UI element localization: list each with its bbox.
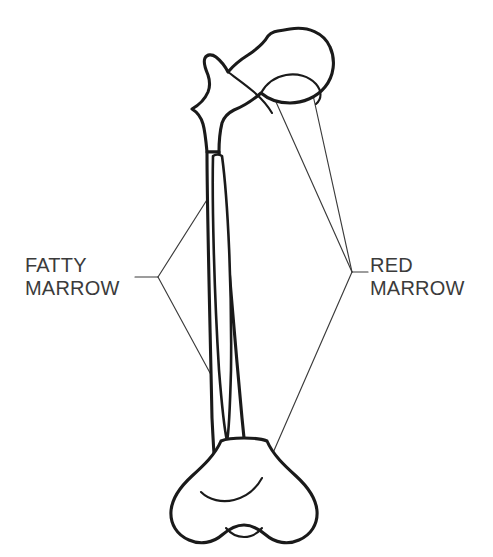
femur-diagram: FATTY MARROW RED MARROW <box>0 0 493 557</box>
fatty-marrow-label: FATTY MARROW <box>25 254 120 299</box>
bone-marrow-figure: FATTY MARROW RED MARROW <box>0 0 493 557</box>
leader-lines <box>135 93 368 478</box>
red-marrow-label-line1: RED <box>370 254 413 276</box>
fatty-marrow-label-line1: FATTY <box>25 254 87 276</box>
fatty-marrow-label-line2: MARROW <box>25 277 120 299</box>
distal-epiphysis <box>171 438 317 543</box>
femur-bone <box>171 28 334 542</box>
red-marrow-leader <box>262 93 368 478</box>
red-marrow-label-line2: MARROW <box>370 277 465 299</box>
red-marrow-label: RED MARROW <box>370 254 465 299</box>
